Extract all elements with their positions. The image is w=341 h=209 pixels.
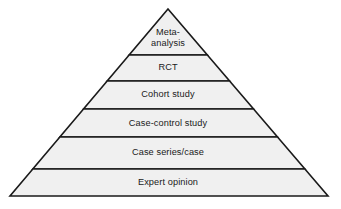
pyramid-tier-label-4: Case series/case (132, 147, 204, 157)
pyramid-tier-label-line: Meta- (156, 27, 180, 37)
pyramid-tier-label-line: RCT (158, 62, 177, 72)
evidence-pyramid-figure: Meta-analysisRCTCohort studyCase-control… (0, 0, 341, 209)
pyramid-tier-label-line: Cohort study (141, 89, 195, 99)
pyramid-tier-label-5: Expert opinion (138, 177, 198, 187)
pyramid-tier-label-3: Case-control study (129, 118, 208, 128)
pyramid-tier-label-2: Cohort study (141, 89, 195, 99)
pyramid-diagram: Meta-analysisRCTCohort studyCase-control… (0, 0, 341, 209)
pyramid-tier-label-line: analysis (151, 38, 185, 48)
pyramid-tier-label-1: RCT (158, 62, 177, 72)
pyramid-tier-label-line: Case series/case (132, 147, 204, 157)
pyramid-tier-label-line: Expert opinion (138, 177, 198, 187)
pyramid-tier-label-line: Case-control study (129, 118, 208, 128)
